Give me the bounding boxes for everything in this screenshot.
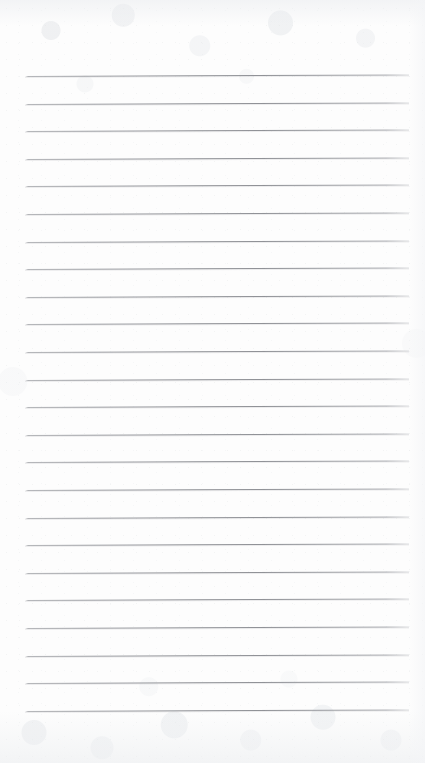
ruled-line-stroke [25,433,409,435]
ruled-line-stroke [25,544,409,546]
ruled-line-stroke [25,709,409,711]
ruled-line [0,406,425,409]
ruled-line [0,489,425,492]
ruled-line-stroke [25,295,409,297]
ruled-line-stroke [25,378,409,380]
ruled-line-stroke [25,185,409,187]
ruled-line-stroke [25,682,409,684]
ruled-line [0,544,425,547]
ruled-line-stroke [25,102,409,104]
ruled-line [0,627,425,630]
ruled-line [0,213,425,216]
ruled-line-stroke [25,516,409,518]
ruled-line [0,241,425,244]
ruled-line [0,572,425,575]
ruled-line-stroke [25,351,409,353]
ruled-line-stroke [25,75,409,77]
ruled-line-stroke [25,599,409,601]
ruled-line [0,461,425,464]
ruled-lines-layer [0,0,425,763]
ruled-line [0,323,425,326]
ruled-line-stroke [25,323,409,325]
ruled-line-stroke [25,654,409,656]
ruled-line-stroke [25,406,409,408]
ruled-line [0,103,425,106]
ruled-line [0,268,425,271]
ruled-line [0,434,425,437]
ruled-line [0,710,425,713]
ruled-line-stroke [25,130,409,132]
ruled-line [0,158,425,161]
ruled-line-stroke [25,571,409,573]
ruled-line-stroke [25,157,409,159]
ruled-line [0,75,425,78]
ruled-line [0,185,425,188]
notepad-page [0,0,425,763]
ruled-line [0,682,425,685]
ruled-line [0,655,425,658]
ruled-line-stroke [25,489,409,491]
ruled-line [0,130,425,133]
ruled-line [0,517,425,520]
ruled-line [0,379,425,382]
ruled-line [0,296,425,299]
ruled-line-stroke [25,240,409,242]
ruled-line-stroke [25,213,409,215]
ruled-line-stroke [25,461,409,463]
ruled-line [0,599,425,602]
ruled-line-stroke [25,268,409,270]
ruled-line-stroke [25,627,409,629]
ruled-line [0,351,425,354]
